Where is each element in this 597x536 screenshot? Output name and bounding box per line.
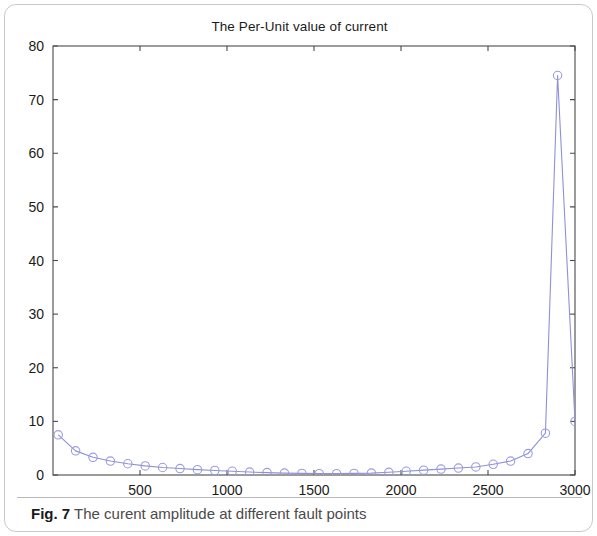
y-tick-label: 80 [28,38,44,54]
y-tick-label: 10 [28,413,44,429]
figure-card: The Per-Unit value of current 5001000150… [4,4,593,532]
series-line [58,75,575,473]
line-chart-plot: 5001000150020002500300001020304050607080 [5,5,593,497]
figure-caption: Fig. 7 The curent amplitude at different… [31,505,576,522]
caption-divider [17,497,582,498]
x-tick-label: 500 [128,482,152,497]
chart-region: The Per-Unit value of current 5001000150… [5,5,593,497]
figure-caption-text: The curent amplitude at different fault … [74,505,366,522]
y-tick-label: 60 [28,145,44,161]
y-tick-label: 20 [28,360,44,376]
x-tick-label: 2500 [472,482,503,497]
y-tick-label: 0 [36,467,44,483]
figure-caption-label: Fig. 7 [31,505,70,522]
x-tick-label: 1000 [211,482,242,497]
axis-box [53,46,575,475]
y-tick-label: 50 [28,199,44,215]
series-group [54,71,579,478]
x-tick-label: 2000 [385,482,416,497]
y-tick-label: 70 [28,92,44,108]
y-tick-label: 30 [28,306,44,322]
x-tick-label: 1500 [298,482,329,497]
x-tick-label: 3000 [559,482,590,497]
y-tick-label: 40 [28,253,44,269]
